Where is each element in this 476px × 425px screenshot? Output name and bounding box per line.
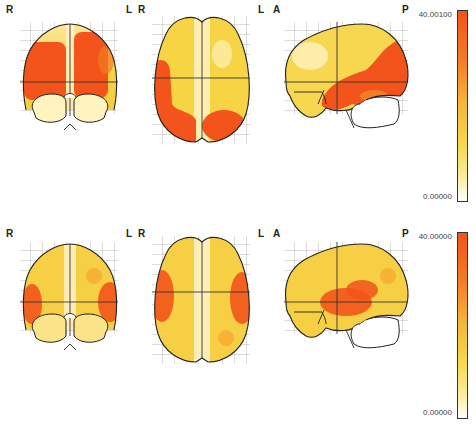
orientation-label-left: L xyxy=(258,5,264,15)
axial-glass-brain-view xyxy=(150,14,254,146)
sagittal-glass-brain-view xyxy=(282,20,412,132)
orientation-label-right: R xyxy=(6,229,13,239)
colorbar-min-label: 0.00000 xyxy=(402,192,452,201)
orientation-label-right: R xyxy=(6,5,13,15)
orientation-label-anterior: A xyxy=(273,229,280,239)
orientation-label-right: R xyxy=(138,229,145,239)
orientation-label-right: R xyxy=(138,5,145,15)
orientation-label-left: L xyxy=(258,229,264,239)
colorbar xyxy=(457,232,468,419)
colorbar-max-label: 40.00100 xyxy=(402,10,452,19)
orientation-label-left: L xyxy=(126,5,132,15)
coronal-glass-brain-view xyxy=(18,240,122,352)
colorbar-min-label: 0.00000 xyxy=(402,408,452,417)
coronal-glass-brain-view xyxy=(18,20,122,132)
orientation-label-anterior: A xyxy=(273,5,280,15)
colorbar-max-label: 40.00000 xyxy=(402,232,452,241)
axial-glass-brain-view xyxy=(150,234,254,366)
orientation-label-left: L xyxy=(126,229,132,239)
colorbar xyxy=(457,10,468,202)
sagittal-glass-brain-view xyxy=(282,240,412,352)
